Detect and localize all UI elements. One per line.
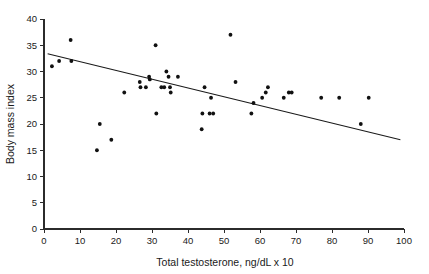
data-point — [229, 33, 233, 37]
data-point — [264, 91, 268, 95]
y-tick-label: 40 — [26, 13, 37, 24]
scatter-plot-figure: 0510152025303540 0102030405060708090100 … — [0, 0, 429, 274]
data-point — [168, 85, 172, 89]
x-tick-label: 100 — [396, 235, 412, 246]
data-point — [282, 96, 286, 100]
data-point — [95, 148, 99, 152]
data-point — [69, 59, 73, 63]
data-point — [122, 91, 126, 95]
data-point — [337, 96, 341, 100]
data-point — [167, 75, 171, 79]
data-point — [144, 85, 148, 89]
y-tick-label: 35 — [26, 40, 37, 51]
data-point — [367, 96, 371, 100]
y-tick-label: 15 — [26, 145, 37, 156]
data-point — [234, 80, 238, 84]
y-axis-title: Body mass index — [4, 83, 16, 164]
x-tick-label: 20 — [111, 235, 122, 246]
data-point — [176, 75, 180, 79]
x-tick-label: 50 — [219, 235, 230, 246]
y-tick-label: 30 — [26, 66, 37, 77]
data-point — [201, 112, 205, 116]
chart-canvas: 0510152025303540 0102030405060708090100 … — [0, 0, 429, 274]
x-tick-label: 0 — [41, 235, 46, 246]
x-tick-label: 40 — [183, 235, 194, 246]
data-point — [208, 112, 212, 116]
data-point — [50, 64, 54, 68]
data-point — [57, 59, 61, 63]
x-axis-title: Total testosterone, ng/dL x 10 — [156, 256, 294, 268]
data-point — [266, 85, 270, 89]
data-point — [169, 91, 173, 95]
y-tick-label: 25 — [26, 92, 37, 103]
x-tick-label: 70 — [291, 235, 302, 246]
regression-line-segment — [48, 54, 401, 140]
y-tick-label: 0 — [32, 223, 37, 234]
x-tick-label: 60 — [255, 235, 266, 246]
data-point — [290, 91, 294, 95]
data-point — [209, 96, 213, 100]
x-tick-label: 90 — [363, 235, 374, 246]
y-axis: 0510152025303540 — [26, 13, 44, 234]
data-point — [252, 101, 256, 105]
data-point — [211, 112, 215, 116]
y-tick-label: 20 — [26, 118, 37, 129]
regression-line — [48, 54, 401, 140]
data-point — [109, 138, 113, 142]
data-point — [260, 96, 264, 100]
y-tick-label: 5 — [32, 197, 37, 208]
data-point — [200, 127, 204, 131]
data-point — [359, 122, 363, 126]
x-tick-label: 10 — [75, 235, 86, 246]
data-point — [139, 85, 143, 89]
data-point — [162, 85, 166, 89]
data-point — [154, 43, 158, 47]
x-axis: 0102030405060708090100 — [41, 229, 412, 246]
data-point — [249, 112, 253, 116]
x-tick-label: 30 — [147, 235, 158, 246]
data-point — [148, 77, 152, 81]
data-point — [138, 80, 142, 84]
x-tick-label: 80 — [327, 235, 338, 246]
data-point — [165, 70, 169, 74]
data-points — [50, 33, 371, 152]
data-point — [154, 112, 158, 116]
data-point — [203, 85, 207, 89]
data-point — [69, 38, 73, 42]
data-point — [319, 96, 323, 100]
y-tick-label: 10 — [26, 171, 37, 182]
data-point — [98, 122, 102, 126]
